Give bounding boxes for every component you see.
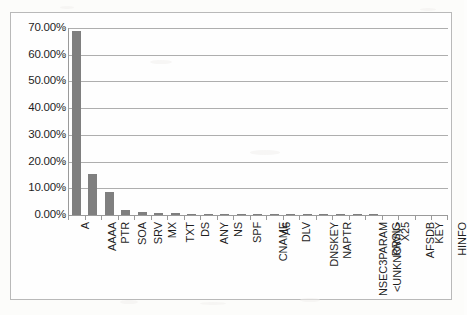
x-axis-tick-slot (233, 215, 250, 220)
x-axis-tick-slot (316, 215, 333, 220)
scan-artifact (60, 6, 74, 9)
x-axis-tick-mark (167, 215, 168, 220)
bar-slot (134, 28, 151, 215)
x-axis-tick-slot (217, 215, 234, 220)
y-axis-tick-label: 60.00% (14, 49, 66, 61)
bar (105, 192, 114, 216)
x-axis-tick-mark (250, 215, 251, 220)
scan-artifact (300, 298, 320, 302)
x-axis-tick-slot (250, 215, 267, 220)
bar-slot (101, 28, 118, 215)
x-axis-tick-mark (134, 215, 135, 220)
x-axis-tick-mark (151, 215, 152, 220)
y-axis-tick-mark (62, 135, 66, 136)
x-axis-tick-slot (184, 215, 201, 220)
bar-slot (283, 28, 300, 215)
x-axis-labels: AAAAAPTRSOASRVMXTXTDSANYNSSPFCNAMEA6DLVD… (68, 222, 448, 300)
chart-frame: 70.00%60.00%50.00%40.00%30.00%20.00%10.0… (10, 12, 452, 300)
y-axis-tick-label: 50.00% (14, 76, 66, 88)
scan-artifact (120, 300, 138, 304)
x-axis-label-slot: DLV (283, 222, 300, 300)
y-axis-tick-mark (62, 81, 66, 82)
scan-artifact (250, 150, 280, 155)
x-axis-tick-slot (167, 215, 184, 220)
plot-area (68, 28, 448, 215)
x-axis-tick-slot (398, 215, 415, 220)
bar-slot (217, 28, 234, 215)
bar-slot (316, 28, 333, 215)
bar-slot (68, 28, 85, 215)
x-axis-tick-mark (233, 215, 234, 220)
scan-artifact (420, 8, 436, 11)
x-axis-tick-slot (151, 215, 168, 220)
x-axis-tick-slot (283, 215, 300, 220)
y-axis: 70.00%60.00%50.00%40.00%30.00%20.00%10.0… (11, 28, 66, 215)
bar-slot (151, 28, 168, 215)
x-axis-label-slot: X25 (382, 222, 399, 300)
y-axis-tick-mark (62, 55, 66, 56)
x-axis-tick-mark (447, 215, 448, 220)
x-axis-label-slot: <UNKNOWN> (349, 222, 366, 300)
x-axis-label-slot: SPF (233, 222, 250, 300)
bar-slot (167, 28, 184, 215)
x-axis-tick-mark (332, 215, 333, 220)
x-axis-tick-mark (398, 215, 399, 220)
y-axis-tick-mark (62, 215, 66, 216)
x-axis-label-slot: SRV (134, 222, 151, 300)
y-axis-tick-mark (62, 162, 66, 163)
x-axis-tick-mark (217, 215, 218, 220)
bar-slot (332, 28, 349, 215)
x-axis-label-slot: KEY (415, 222, 432, 300)
x-axis-tick-slot (415, 215, 432, 220)
bar-slot (299, 28, 316, 215)
x-axis-tick-mark (431, 215, 432, 220)
x-axis-tick-slot (299, 215, 316, 220)
x-axis-tick-mark (85, 215, 86, 220)
x-axis-tick-slot (349, 215, 366, 220)
y-axis-tick-label: 20.00% (14, 156, 66, 168)
bar (88, 174, 97, 215)
x-axis-tick-mark (365, 215, 366, 220)
x-axis-label-slot: TXT (167, 222, 184, 300)
x-axis-label-slot: A6 (266, 222, 283, 300)
x-axis-label-slot: NAPTR (316, 222, 333, 300)
bar-slot (431, 28, 448, 215)
x-axis-label-slot: AFSDB (398, 222, 415, 300)
bar-slot (200, 28, 217, 215)
x-axis-tick-slot (118, 215, 135, 220)
x-axis-tick-slot (332, 215, 349, 220)
x-axis-tick-mark (200, 215, 201, 220)
x-axis-tick-mark (68, 215, 69, 220)
x-axis-label-slot: DS (184, 222, 201, 300)
x-axis-label-slot: NSEC3PARAM (332, 222, 349, 300)
bar-slot (382, 28, 399, 215)
bar-series (68, 28, 448, 215)
x-axis-tick-slot (382, 215, 399, 220)
y-axis-tick-label: 0.00% (14, 209, 66, 221)
x-axis-label-slot: A (68, 222, 85, 300)
x-axis-tick-mark (382, 215, 383, 220)
bar-slot (233, 28, 250, 215)
x-axis-tick-slot (365, 215, 382, 220)
x-axis-tick-mark (299, 215, 300, 220)
bar-slot (85, 28, 102, 215)
x-axis-label-slot: RRSIG (365, 222, 382, 300)
x-axis-tick-slot (431, 215, 448, 220)
x-axis-tick-slot (266, 215, 283, 220)
x-axis-label-slot: DNSKEY (299, 222, 316, 300)
bar-slot (266, 28, 283, 215)
bar-slot (118, 28, 135, 215)
x-axis-tick-mark (101, 215, 102, 220)
scan-artifact (150, 60, 172, 64)
x-axis-tick-mark (266, 215, 267, 220)
x-axis-label-slot: CNAME (250, 222, 267, 300)
x-axis-tick-slot (200, 215, 217, 220)
x-axis-tick-mark (316, 215, 317, 220)
y-axis-tick-mark (62, 28, 66, 29)
x-axis-label-slot: MX (151, 222, 168, 300)
x-axis-ticks (68, 215, 448, 220)
bar (72, 31, 81, 215)
x-axis-tick-slot (134, 215, 151, 220)
x-axis-tick-slot (85, 215, 102, 220)
